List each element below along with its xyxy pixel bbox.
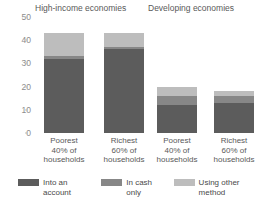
bar-stack [44, 33, 84, 133]
legend-label: Using other method [199, 178, 247, 197]
x-axis-label-line: Poorest [148, 136, 206, 146]
bar-segment [214, 96, 254, 103]
y-tick-mark [25, 133, 28, 134]
stacked-bar-chart: High-income economies Developing economi… [0, 0, 258, 205]
x-axis-label-line: households [205, 155, 258, 165]
group-title-developing: Developing economies [148, 3, 234, 13]
legend-item[interactable]: Into an account [18, 178, 90, 197]
group-title-high-income: High-income economies [35, 3, 126, 13]
bar-segment [44, 59, 84, 133]
y-tick-label: 10 [15, 106, 31, 115]
x-axis-label: Poorest40% ofhouseholds [148, 136, 206, 165]
bar-segment [104, 49, 144, 133]
y-tick-mark [25, 40, 28, 41]
y-tick-label: 40 [15, 36, 31, 45]
legend-item[interactable]: In cash only [101, 178, 162, 197]
x-axis-label-line: households [148, 155, 206, 165]
bar-segment [157, 105, 197, 133]
y-tick-mark [25, 86, 28, 87]
legend-label: In cash only [126, 178, 162, 197]
legend-swatch [101, 179, 122, 186]
y-tick-label: 50 [15, 13, 31, 22]
legend-swatch [174, 179, 195, 186]
x-axis-label-line: households [35, 155, 93, 165]
bar-segment [157, 96, 197, 105]
legend-label: Into an account [43, 178, 90, 197]
legend-swatch [18, 179, 39, 186]
y-tick-mark [25, 109, 28, 110]
y-axis: 01020304050 [0, 17, 31, 133]
y-tick-label: 30 [15, 59, 31, 68]
x-axis-label: Poorest40% ofhouseholds [35, 136, 93, 165]
bar-segment [214, 103, 254, 133]
bar-stack [214, 91, 254, 133]
bar-segment [44, 33, 84, 56]
x-axis-label-line: Poorest [35, 136, 93, 146]
bar-segment [157, 87, 197, 96]
y-tick-mark [25, 17, 28, 18]
y-tick-label: 20 [15, 82, 31, 91]
y-tick-mark [25, 63, 28, 64]
x-axis-label-line: 40% of [148, 146, 206, 156]
x-axis-label-line: 60% of [95, 146, 153, 156]
x-axis-label-line: households [95, 155, 153, 165]
bar-stack [104, 33, 144, 133]
legend-item[interactable]: Using other method [174, 178, 247, 197]
x-axis-label-line: 60% of [205, 146, 258, 156]
x-axis-label-line: Richest [205, 136, 258, 146]
bar-stack [157, 87, 197, 133]
y-tick-label: 0 [15, 129, 31, 138]
x-axis-label: Richest60% ofhouseholds [205, 136, 258, 165]
legend: Into an accountIn cash onlyUsing other m… [18, 178, 258, 197]
bar-segment [104, 33, 144, 47]
plot-area [33, 17, 255, 133]
x-axis-label-line: Richest [95, 136, 153, 146]
x-axis-label: Richest60% ofhouseholds [95, 136, 153, 165]
x-axis-label-line: 40% of [35, 146, 93, 156]
